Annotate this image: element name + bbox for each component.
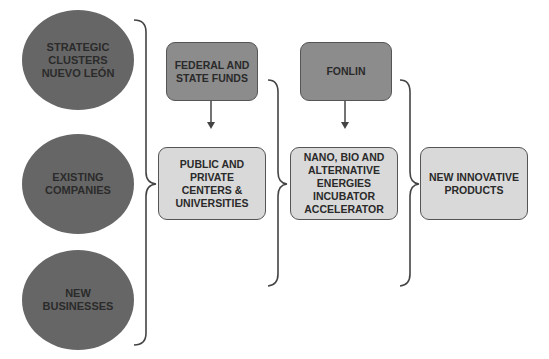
box-federal-state-funds: FEDERAL AND STATE FUNDS <box>166 42 258 101</box>
box-label: PUBLIC AND PRIVATE CENTERS & UNIVERSITIE… <box>176 158 249 210</box>
ellipse-existing-companies: EXISTING COMPANIES <box>22 134 134 234</box>
ellipse-label: EXISTING COMPANIES <box>45 171 111 197</box>
ellipse-label: NEW BUSINESSES <box>43 287 114 313</box>
arrow-head-federal <box>207 122 215 129</box>
box-fonlin: FONLIN <box>300 42 392 101</box>
box-label: FONLIN <box>326 65 365 78</box>
arrow-head-fonlin <box>341 122 349 129</box>
box-label: NANO, BIO AND ALTERNATIVE ENERGIES INCUB… <box>304 151 385 216</box>
box-label: NEW INNOVATIVE PRODUCTS <box>429 171 519 197</box>
box-new-innovative-products: NEW INNOVATIVE PRODUCTS <box>420 147 528 220</box>
box-public-private-centers: PUBLIC AND PRIVATE CENTERS & UNIVERSITIE… <box>158 147 266 220</box>
box-label: FEDERAL AND STATE FUNDS <box>175 59 250 85</box>
brace-stage2 <box>400 80 419 286</box>
brace-sources <box>134 20 156 345</box>
brace-stage1 <box>268 80 287 286</box>
ellipse-strategic-clusters: STRATEGIC CLUSTERS NUEVO LEÓN <box>22 10 134 110</box>
ellipse-label: STRATEGIC CLUSTERS NUEVO LEÓN <box>42 41 115 80</box>
ellipse-new-businesses: NEW BUSINESSES <box>22 250 134 350</box>
box-incubator-accelerator: NANO, BIO AND ALTERNATIVE ENERGIES INCUB… <box>290 147 398 220</box>
